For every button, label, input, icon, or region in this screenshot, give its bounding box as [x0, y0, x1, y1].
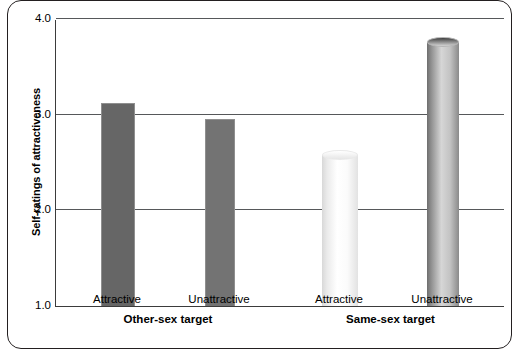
y-tick-label: 4.0 — [35, 12, 51, 24]
bar-body — [427, 42, 459, 306]
y-tick-label: 1.0 — [35, 299, 51, 311]
plot-area: 1.02.03.04.0 — [55, 20, 504, 307]
y-tick-label: 2.0 — [35, 203, 51, 215]
bar-cap — [427, 37, 459, 47]
bar — [322, 155, 358, 306]
bar — [205, 119, 235, 307]
x-tick-label: Attractive — [93, 293, 141, 305]
y-tick-label: 3.0 — [35, 108, 51, 120]
group-label: Other-sex target — [124, 313, 213, 325]
bar — [101, 103, 135, 306]
x-tick-label: Unattractive — [411, 293, 472, 305]
bar — [427, 42, 459, 306]
y-axis-title: Self-ratings of attractiveness — [30, 72, 42, 252]
bar-body — [205, 119, 235, 307]
group-label: Same-sex target — [346, 313, 435, 325]
bar-body — [322, 155, 358, 306]
gridline: 4.0 — [56, 18, 504, 19]
x-tick-label: Unattractive — [188, 293, 249, 305]
bar-cap — [322, 150, 358, 160]
x-tick-label: Attractive — [315, 293, 363, 305]
bar-body — [101, 103, 135, 306]
figure-frame: Self-ratings of attractiveness 1.02.03.0… — [7, 0, 512, 349]
